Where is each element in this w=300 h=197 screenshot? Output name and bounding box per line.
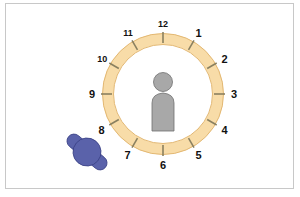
hour-label-5: 5 <box>195 149 201 161</box>
hour-label-3: 3 <box>231 88 237 100</box>
hour-label-12: 12 <box>158 19 168 29</box>
hour-label-11: 11 <box>123 28 133 38</box>
hour-label-10: 10 <box>97 54 107 64</box>
clock-diagram: 121234567891011 <box>0 0 300 197</box>
hour-label-1: 1 <box>195 27 201 39</box>
hour-label-6: 6 <box>160 159 166 171</box>
hour-label-4: 4 <box>221 124 228 136</box>
hour-label-9: 9 <box>89 88 95 100</box>
hour-label-7: 7 <box>124 149 130 161</box>
person-icon <box>152 73 174 132</box>
hour-label-8: 8 <box>98 124 104 136</box>
hour-label-2: 2 <box>221 53 227 65</box>
observer-icon <box>60 126 115 178</box>
